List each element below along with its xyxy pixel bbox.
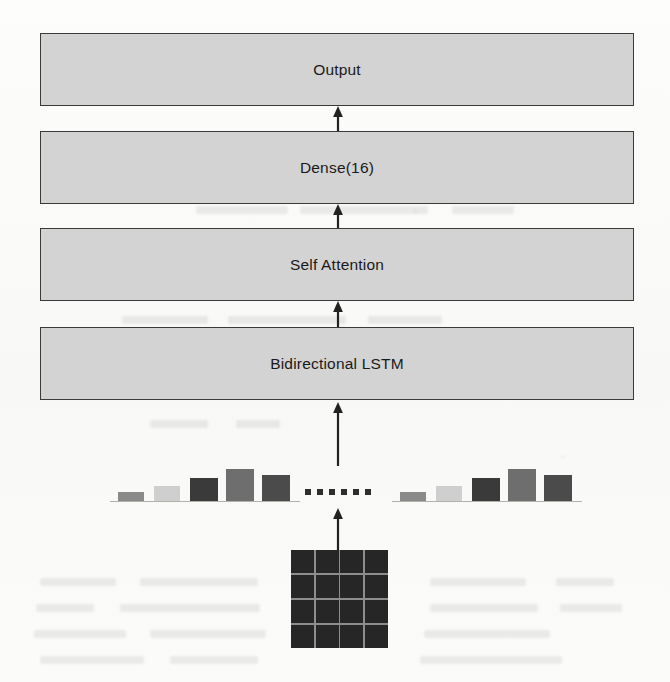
ghost-text-line — [40, 578, 116, 586]
arrow-lstm-to-attention — [330, 301, 346, 327]
layer-label-dense: Dense(16) — [300, 160, 374, 176]
input-matrix-cell — [291, 600, 314, 623]
input-matrix-cell — [365, 600, 388, 623]
ghost-text-line — [430, 578, 526, 586]
layer-box-dense[interactable]: Dense(16) — [40, 131, 634, 204]
ghost-text-line — [556, 578, 614, 586]
embedding-bar — [190, 478, 218, 501]
input-matrix-cell — [316, 550, 339, 573]
embedding-bar — [400, 492, 426, 501]
input-matrix-cell — [291, 550, 314, 573]
ghost-text-line — [424, 630, 550, 638]
ghost-text-line — [560, 604, 622, 612]
embedding-bar — [508, 469, 536, 501]
embedding-bar — [544, 475, 572, 501]
arrow-dense-to-output — [330, 106, 346, 131]
ellipsis-dot — [353, 489, 359, 495]
embedding-baseline — [392, 501, 582, 502]
input-matrix-cell — [316, 625, 339, 648]
input-matrix-cell — [340, 600, 363, 623]
embedding-bar — [154, 486, 180, 501]
ghost-text-line — [122, 316, 208, 324]
ghost-text-line — [300, 206, 428, 214]
ghost-text-line — [36, 604, 94, 612]
input-matrix-cell — [340, 575, 363, 598]
ghost-text-line — [150, 420, 208, 428]
input-matrix-grid[interactable] — [291, 550, 388, 648]
embedding-baseline — [110, 501, 300, 502]
input-matrix-cell — [365, 575, 388, 598]
layer-label-bidirectional-lstm: Bidirectional LSTM — [270, 356, 404, 372]
layer-label-self-attention: Self Attention — [290, 257, 384, 273]
embedding-bar — [226, 469, 254, 501]
ghost-text-line — [236, 420, 280, 428]
ghost-text-line — [40, 656, 144, 664]
ghost-text-line — [120, 604, 260, 612]
input-matrix-cell — [340, 550, 363, 573]
layer-label-output: Output — [313, 62, 361, 78]
ghost-text-line — [228, 316, 346, 324]
ghost-text-line — [368, 316, 442, 324]
ellipsis-dot — [305, 489, 311, 495]
ghost-text-line — [452, 206, 514, 214]
embedding-bar — [262, 475, 290, 501]
ellipsis-dot — [341, 489, 347, 495]
ghost-text-line — [420, 656, 562, 664]
ellipsis-dot — [329, 489, 335, 495]
input-matrix-cell — [316, 600, 339, 623]
ghost-text-line — [140, 578, 258, 586]
input-matrix-cell — [365, 625, 388, 648]
ellipsis-dot — [365, 489, 371, 495]
arrow-input-grid-to-embeddings — [330, 508, 346, 550]
architecture-diagram: Output Dense(16) Self Attention Bidirect… — [0, 0, 670, 682]
ghost-text-line — [170, 656, 258, 664]
embedding-bar — [472, 478, 500, 501]
ghost-text-line — [34, 630, 126, 638]
embedding-bar — [436, 486, 462, 501]
arrow-embeddings-to-lstm — [330, 402, 346, 466]
input-matrix-cell — [316, 575, 339, 598]
layer-box-output[interactable]: Output — [40, 33, 634, 106]
input-matrix-cell — [291, 575, 314, 598]
ghost-text-line — [150, 630, 266, 638]
input-matrix-cell — [291, 625, 314, 648]
input-matrix-cell — [365, 550, 388, 573]
arrow-attention-to-dense — [330, 204, 346, 228]
layer-box-self-attention[interactable]: Self Attention — [40, 228, 634, 301]
input-matrix-cell — [340, 625, 363, 648]
ellipsis-dot — [317, 489, 323, 495]
ghost-text-line — [196, 206, 288, 214]
embedding-bar — [118, 492, 144, 501]
ghost-text-line — [430, 604, 538, 612]
layer-box-bidirectional-lstm[interactable]: Bidirectional LSTM — [40, 327, 634, 400]
